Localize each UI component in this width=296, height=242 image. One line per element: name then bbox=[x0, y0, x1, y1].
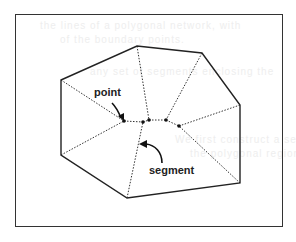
dotted-segment bbox=[137, 46, 149, 120]
dotted-segment bbox=[127, 122, 143, 198]
dotted-segment bbox=[166, 53, 202, 120]
dotted-segment bbox=[166, 120, 179, 126]
segment-arrow-icon bbox=[146, 144, 162, 163]
point-label: point bbox=[94, 86, 121, 98]
polygon-diagram bbox=[0, 0, 296, 242]
dotted-segment bbox=[61, 121, 124, 155]
inner-point bbox=[177, 124, 181, 128]
inner-point bbox=[141, 120, 145, 124]
segment-arrowhead-icon bbox=[139, 140, 147, 148]
segment-label: segment bbox=[149, 164, 194, 176]
dotted-segment bbox=[179, 105, 240, 126]
inner-point bbox=[147, 118, 151, 122]
dotted-segment bbox=[124, 121, 143, 122]
inner-point bbox=[164, 118, 168, 122]
